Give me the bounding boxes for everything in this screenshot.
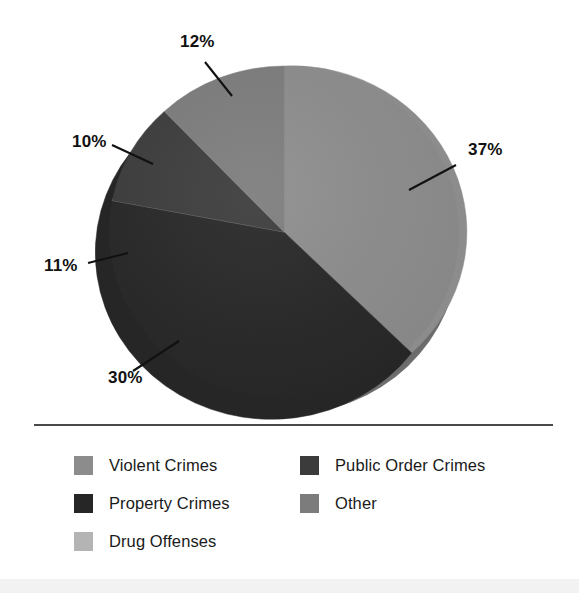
legend-divider <box>34 424 553 426</box>
legend-swatch-icon <box>74 494 93 513</box>
pie-slices <box>95 66 467 420</box>
legend-swatch-icon <box>74 456 93 475</box>
chart-legend: Violent Crimes Public Order Crimes Prope… <box>0 424 579 593</box>
pie-graphic <box>0 0 579 420</box>
legend-item-label: Other <box>335 494 377 513</box>
legend-item-other[interactable]: Other <box>300 484 522 522</box>
callout-label-violent: 37% <box>468 140 503 160</box>
legend-item-drug-offenses[interactable]: Drug Offenses <box>74 522 296 560</box>
legend-swatch-icon <box>300 456 319 475</box>
callout-label-public-order: 10% <box>72 132 107 152</box>
legend-item-label: Drug Offenses <box>109 532 216 551</box>
pie-chart-figure: 12% 10% 11% 30% 37% Violent Crimes Publi… <box>0 0 579 593</box>
legend-item-label: Property Crimes <box>109 494 230 513</box>
legend-item-label: Public Order Crimes <box>335 456 485 475</box>
callout-label-drug: 11% <box>44 256 78 276</box>
legend-items: Violent Crimes Public Order Crimes Prope… <box>74 446 544 560</box>
legend-swatch-icon <box>300 494 319 513</box>
pie-sheen <box>109 66 459 398</box>
legend-item-label: Violent Crimes <box>109 456 217 475</box>
footer-band <box>0 579 579 593</box>
legend-item-public-order-crimes[interactable]: Public Order Crimes <box>300 446 522 484</box>
legend-item-violent-crimes[interactable]: Violent Crimes <box>74 446 296 484</box>
legend-swatch-icon <box>74 532 93 551</box>
callout-label-property: 30% <box>108 368 143 388</box>
callout-label-other: 12% <box>180 32 215 52</box>
legend-item-property-crimes[interactable]: Property Crimes <box>74 484 296 522</box>
pie-plot-area: 12% 10% 11% 30% 37% <box>0 0 579 420</box>
